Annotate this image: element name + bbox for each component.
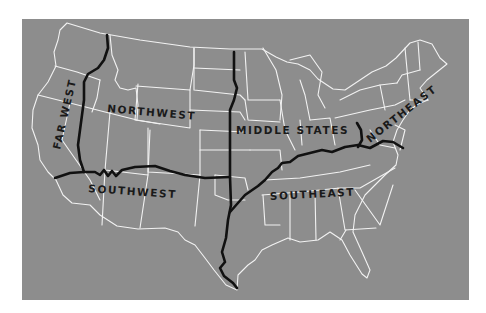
label-middle-states: MIDDLE STATES	[236, 124, 349, 136]
us-regions-map: FAR WEST NORTHWEST MIDDLE STATES NORTHEA…	[0, 0, 486, 313]
